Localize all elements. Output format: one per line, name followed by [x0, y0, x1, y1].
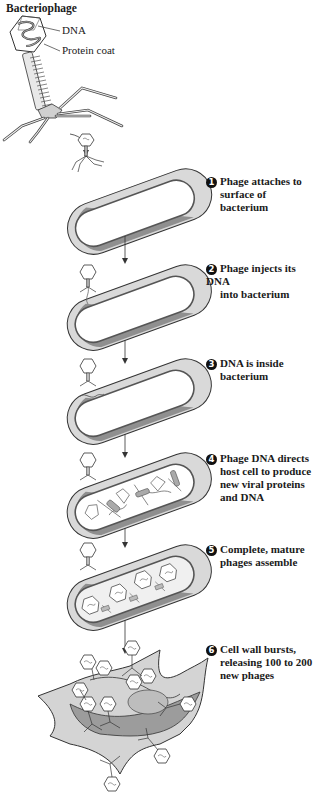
bacterium-step-3 [58, 356, 218, 446]
step-5-label: 5Complete, mature phages assemble [206, 543, 314, 569]
bacterium-step-2 [58, 262, 218, 352]
protein-coat-label: Protein coat [62, 44, 115, 56]
bacterium-step-4 [58, 450, 218, 540]
step-number-badge: 2 [206, 264, 217, 275]
step-number-badge: 4 [206, 454, 217, 465]
bacterium-burst-step-6 [30, 644, 230, 794]
step-1-label: 1Phage attaches to surface of bacterium [206, 175, 314, 214]
step-number-badge: 5 [206, 545, 217, 556]
bacterium-step-5 [58, 542, 218, 632]
step-3-label: 3DNA is inside bacterium [206, 357, 314, 383]
bacteriophage-illustration [0, 0, 160, 140]
step-number-badge: 6 [206, 645, 217, 656]
step-2-label: 2Phage injects its DNA into bacterium [206, 262, 314, 301]
step-6-label: 6Cell wall bursts, releasing 100 to 200 … [206, 643, 314, 682]
bacterium-step-1 [58, 160, 218, 260]
step-4-label: 4Phage DNA directs host cell to produce … [206, 452, 314, 504]
dna-label: DNA [62, 24, 86, 36]
step-number-badge: 3 [206, 359, 217, 370]
step-number-badge: 1 [206, 177, 217, 188]
